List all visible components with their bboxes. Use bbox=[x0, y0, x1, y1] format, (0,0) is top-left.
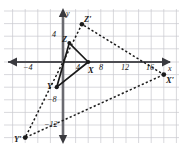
point-Z bbox=[67, 41, 71, 45]
x-tick-label-4: 4 bbox=[76, 64, 80, 72]
coordinate-plane-figure: −4 4 8 12 16 4 −8 −12 x y X Y Z X′ Y′ Z′ bbox=[0, 0, 179, 148]
label-point-Yp: Y′ bbox=[14, 135, 22, 144]
x-tick-label-8: 8 bbox=[99, 64, 103, 72]
y-axis-label: y bbox=[66, 10, 70, 18]
y-tick-label--12: −12 bbox=[44, 121, 58, 129]
y-tick-label-4: 4 bbox=[52, 31, 56, 39]
point-X bbox=[86, 60, 90, 64]
point-Y bbox=[55, 85, 59, 89]
label-point-Y: Y bbox=[47, 82, 52, 91]
x-tick-label--4: −4 bbox=[23, 64, 33, 72]
y-tick-label--8: −8 bbox=[47, 96, 57, 104]
label-point-Z: Z bbox=[62, 35, 67, 44]
label-point-X: X bbox=[88, 66, 94, 75]
label-point-Zp: Z′ bbox=[84, 15, 92, 24]
x-tick-label-16: 16 bbox=[146, 64, 154, 72]
point-Yp bbox=[23, 135, 28, 140]
label-point-Xp: X′ bbox=[166, 76, 174, 85]
grid-lines bbox=[4, 9, 179, 143]
x-tick-label-12: 12 bbox=[121, 64, 129, 72]
x-axis-label: x bbox=[168, 65, 172, 73]
